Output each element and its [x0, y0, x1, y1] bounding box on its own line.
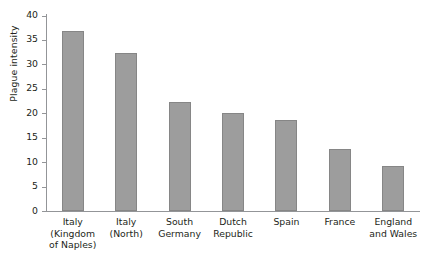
x-axis-category-label: Italy(North) [99, 216, 152, 239]
bar [275, 120, 297, 211]
plague-intensity-bar-chart: Plague intensity 0510152025303540 Italy(… [0, 0, 427, 266]
y-axis-tick-label: 40 [8, 9, 38, 21]
y-axis-tick-label: 25 [8, 82, 38, 94]
y-axis-tick-mark [42, 211, 46, 212]
y-axis-tick-label: 30 [8, 58, 38, 70]
category-label-line: Italy [99, 216, 152, 228]
y-axis-line [46, 14, 47, 212]
x-axis-category-label: DutchRepublic [206, 216, 259, 239]
y-axis-tick-mark [42, 138, 46, 139]
bar [169, 102, 191, 211]
category-label-line: Dutch [206, 216, 259, 228]
y-axis-tick-mark [42, 89, 46, 90]
y-axis-tick-mark [42, 64, 46, 65]
x-axis-category-label: Spain [260, 216, 313, 228]
y-axis-tick-mark [42, 162, 46, 163]
category-label-line: Germany [153, 228, 206, 240]
bar [62, 31, 84, 211]
category-label-line: and Wales [367, 228, 420, 240]
category-label-line: (North) [99, 228, 152, 240]
x-axis-category-label: Englandand Wales [367, 216, 420, 239]
category-label-line: France [313, 216, 366, 228]
category-label-line: Republic [206, 228, 259, 240]
y-axis-tick-mark [42, 187, 46, 188]
y-axis-tick-label: 10 [8, 156, 38, 168]
y-axis-tick-label: 15 [8, 131, 38, 143]
category-label-line: (Kingdom [46, 228, 99, 240]
category-label-line: Spain [260, 216, 313, 228]
x-axis-category-label: France [313, 216, 366, 228]
category-label-line: of Naples) [46, 239, 99, 251]
x-axis-category-label: Italy(Kingdomof Naples) [46, 216, 99, 251]
y-axis-tick-label: 5 [8, 180, 38, 192]
category-label-line: South [153, 216, 206, 228]
y-axis-tick-label: 35 [8, 33, 38, 45]
y-axis-tick-mark [42, 113, 46, 114]
y-axis-tick-label: 0 [8, 205, 38, 217]
x-axis-line [46, 211, 420, 212]
bar [222, 113, 244, 211]
bar [329, 149, 351, 211]
y-axis-tick-mark [42, 16, 46, 17]
x-axis-category-label: SouthGermany [153, 216, 206, 239]
category-label-line: Italy [46, 216, 99, 228]
y-axis-tick-label: 20 [8, 107, 38, 119]
bar [382, 166, 404, 211]
bar [115, 53, 137, 211]
y-axis-tick-mark [42, 40, 46, 41]
category-label-line: England [367, 216, 420, 228]
